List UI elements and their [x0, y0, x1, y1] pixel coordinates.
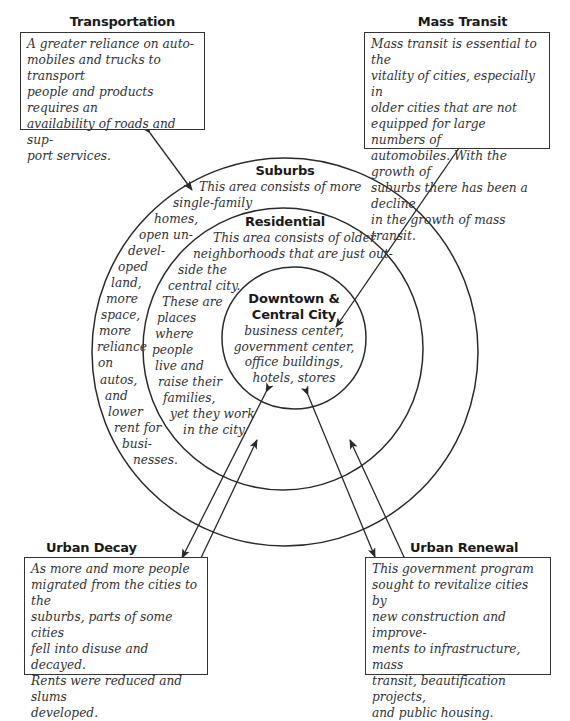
urban-renewal-line: sought to revitalize cities by — [372, 577, 544, 609]
urban-decay-line: fell into disuse and decayed. — [31, 641, 201, 673]
urban-renewal-line: ments to infrastructure, mass — [372, 641, 544, 673]
urban-renewal-line: and public housing. — [372, 705, 544, 721]
downtown-title: Downtown & Central City — [234, 291, 354, 323]
downtown-line: business center, — [224, 324, 364, 340]
residential-line: people — [152, 343, 193, 359]
urban-renewal-title: Urban Renewal — [370, 540, 570, 555]
residential-line: yet they work — [170, 407, 255, 423]
urban-decay-box: As more and more people migrated from th… — [24, 557, 208, 675]
urban-renewal-line: This government program — [372, 561, 544, 577]
urban-decay-line: suburbs, parts of some cities — [31, 609, 201, 641]
urban-decay-line: As more and more people — [31, 561, 201, 577]
residential-line: families, — [163, 391, 215, 407]
downtown-title-line1: Downtown & — [234, 291, 354, 307]
residential-line: neighborhoods that are just out- — [193, 247, 393, 263]
urban-renewal-box: This government program sought to revita… — [365, 557, 551, 675]
downtown-line: office buildings, — [224, 355, 364, 371]
residential-line: central city. — [168, 279, 240, 295]
residential-line: These are — [162, 295, 223, 311]
residential-line: This area consists of older — [213, 231, 376, 247]
residential-line: where — [155, 327, 194, 343]
downtown-line: hotels, stores — [224, 371, 364, 387]
urban-decay-line: developed. — [31, 705, 201, 721]
urban-decay-line: migrated from the cities to the — [31, 577, 201, 609]
residential-line: side the — [178, 263, 227, 279]
urban-decay-title: Urban Decay — [20, 540, 226, 555]
residential-line: in the city. — [183, 423, 247, 439]
residential-line: live and — [155, 359, 204, 375]
residential-line: places — [157, 311, 196, 327]
residential-line: raise their — [158, 375, 222, 391]
urban-decay-line: Rents were reduced and slums — [31, 673, 201, 705]
urban-renewal-line: transit, beautification projects, — [372, 673, 544, 705]
urban-renewal-line: new construction and improve- — [372, 609, 544, 641]
downtown-line: government center, — [224, 340, 364, 356]
downtown-title-line2: Central City — [234, 307, 354, 323]
downtown-description: business center, government center, offi… — [224, 324, 364, 386]
